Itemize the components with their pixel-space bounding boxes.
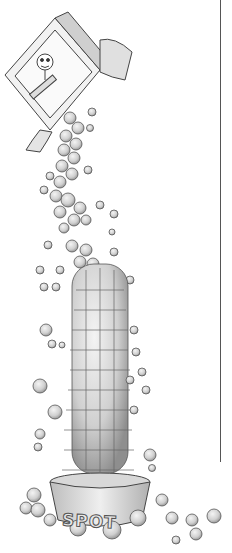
illustration-drawing [0, 0, 232, 553]
bowl-label: SPOT [62, 510, 118, 533]
kibble-stream [36, 108, 134, 474]
illustration: SPOT [0, 0, 232, 553]
vertical-rule [220, 0, 221, 462]
